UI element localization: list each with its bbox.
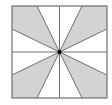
- shaded-region-bottom-left: [12, 52, 60, 98]
- shaded-region-top-left: [12, 6, 60, 52]
- shaded-region-top-right: [60, 6, 108, 52]
- center-point: [58, 50, 62, 54]
- geometric-diagram: [0, 0, 112, 105]
- shaded-region-bottom-right: [60, 52, 108, 98]
